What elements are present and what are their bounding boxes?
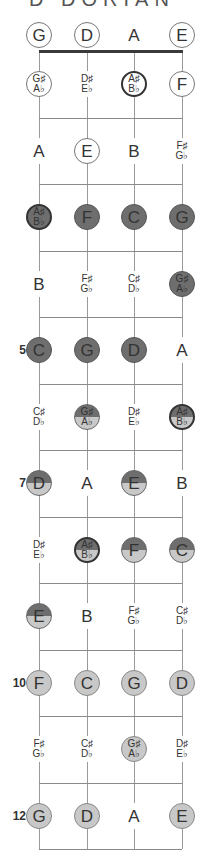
note-marker: G♯A♭ [169,271,195,297]
note-label: E [176,808,187,825]
note-marker: E [169,803,195,829]
note-label: B [128,143,139,160]
fret-line-1 [39,118,182,119]
note-marker: D [26,470,52,496]
note-marker: A [74,470,100,496]
note-marker: C [74,670,100,696]
note-label-enharmonic: E♭ [176,749,188,759]
note-marker: G [26,803,52,829]
note-label: C [81,675,93,692]
note-marker: B [121,138,147,164]
fret-line-3 [39,251,182,252]
note-label-enharmonic: B♭ [128,84,140,94]
note-label: F [177,76,187,93]
note-label: D [33,475,45,492]
note-label: D [128,342,140,359]
note-label-enharmonic: D♭ [33,417,45,427]
nut [39,50,183,53]
note-label: C [128,209,140,226]
note-label-enharmonic: D♭ [81,749,93,759]
note-label: A [128,808,139,825]
note-label-enharmonic: G♭ [176,151,189,161]
note-label: A [128,27,139,44]
note-label: A [33,143,44,160]
note-label: G [175,209,188,226]
note-marker: A [26,138,52,164]
note-label-enharmonic: D♭ [176,616,188,626]
note-label: D [81,27,93,44]
fret-line-4 [39,317,182,318]
note-label-enharmonic: E♭ [81,84,93,94]
note-marker: C [26,337,52,363]
note-marker: F♯G♭ [74,271,100,297]
note-marker: E [121,470,147,496]
note-marker: C [121,204,147,230]
note-label-enharmonic: E♭ [33,550,45,560]
note-marker: G [169,204,195,230]
note-marker: E [26,603,52,629]
note-marker: A♯B♭ [74,537,100,563]
note-label: F [129,542,139,559]
note-label-enharmonic: B♭ [81,550,93,560]
note-label-enharmonic: B♭ [176,417,188,427]
note-marker: D♯E♭ [121,404,147,430]
fret-number: 7 [12,476,26,490]
note-marker: F [169,71,195,97]
note-marker: F♯G♭ [169,138,195,164]
note-marker: E [169,22,195,48]
note-marker: D [169,670,195,696]
note-marker: F♯G♭ [26,736,52,762]
note-label: A [176,342,187,359]
note-label: F [34,675,44,692]
fret-number: 5 [12,343,26,357]
note-label-enharmonic: A♭ [176,284,188,294]
note-marker: D [74,803,100,829]
fret-line-11 [39,783,182,784]
note-marker: F [74,204,100,230]
fretboard-diagram: 571012GDAEG♯A♭D♯E♭A♯B♭FAEBF♯G♭A♯B♭FCGBF♯… [0,0,204,865]
note-label: G [32,808,45,825]
note-marker: A♯B♭ [121,71,147,97]
note-marker: C♯D♭ [121,271,147,297]
note-marker: G♯A♭ [74,404,100,430]
fret-line-9 [39,650,182,651]
note-marker: F [26,670,52,696]
note-label-enharmonic: E♭ [128,417,140,427]
fret-line-10 [39,716,182,717]
note-marker: B [74,603,100,629]
note-label: G [80,342,93,359]
note-label-enharmonic: D♭ [128,284,140,294]
note-label: E [81,143,92,160]
note-marker: D [121,337,147,363]
note-marker: E [74,138,100,164]
note-marker: A [121,22,147,48]
note-marker: C♯D♭ [26,404,52,430]
note-marker: B [26,271,52,297]
note-marker: G [74,337,100,363]
note-marker: F [121,537,147,563]
note-marker: D♯E♭ [169,736,195,762]
note-label: D [176,675,188,692]
fret-line-6 [39,450,182,451]
note-label: E [33,608,44,625]
note-label: E [176,27,187,44]
fret-line-8 [39,583,182,584]
note-label-enharmonic: A♭ [128,749,140,759]
note-label-enharmonic: G♭ [128,616,141,626]
note-label: E [128,475,139,492]
note-label: D [81,808,93,825]
note-label: B [33,276,44,293]
note-label-enharmonic: G♭ [81,284,94,294]
note-marker: D♯E♭ [74,71,100,97]
note-marker: D♯E♭ [26,537,52,563]
note-label: B [81,608,92,625]
fret-number: 10 [12,676,26,690]
note-label: B [176,475,187,492]
fret-line-12 [39,849,182,850]
note-marker: C [169,537,195,563]
note-marker: G [121,670,147,696]
note-marker: C♯D♭ [169,603,195,629]
note-label-enharmonic: A♭ [81,417,93,427]
note-label: G [32,27,45,44]
note-label-enharmonic: G♭ [33,749,46,759]
